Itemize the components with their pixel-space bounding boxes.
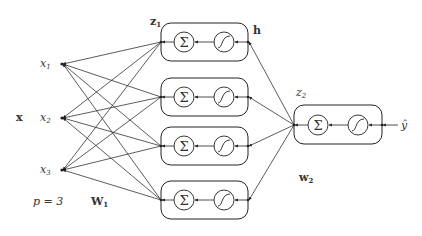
input-label-x1: x1 [40, 57, 51, 71]
sum-symbol: Σ [179, 35, 188, 50]
weights-2-label: w2 [298, 171, 313, 185]
hidden-unit-2 [160, 78, 250, 116]
hidden-preactivation-label: z1 [150, 15, 161, 29]
input-nodes [60, 62, 63, 171]
sum-symbol: Σ [179, 139, 188, 154]
input-hidden-connections [63, 42, 161, 200]
sigmoid-node-icon [214, 190, 234, 210]
sigmoid-node-icon [214, 32, 234, 52]
sigmoid-node-icon [214, 136, 234, 156]
input-node-x1 [60, 62, 63, 65]
hidden-unit-1 [160, 23, 250, 61]
sum-symbol: Σ [313, 118, 322, 133]
sigmoid-node-icon [214, 87, 234, 107]
neural-network-diagram: Σ Σ Σ Σ Σ x1 x2 x3 x p = 3 W1 z1 h z2 w2… [0, 0, 422, 236]
output-unit [293, 105, 398, 144]
weights-1-label: W1 [90, 195, 108, 209]
hidden-unit-4 [160, 181, 250, 219]
hidden-unit-3 [160, 127, 250, 165]
sigmoid-node-icon [348, 115, 368, 135]
input-label-x2: x2 [40, 111, 51, 125]
input-vector-label: x [16, 111, 23, 124]
hidden-activation-label: h [253, 24, 261, 37]
input-node-x2 [60, 116, 63, 119]
output-preactivation-label: z2 [295, 86, 307, 100]
hidden-output-connections [249, 42, 294, 200]
input-node-x3 [60, 168, 63, 171]
output-label: ŷ [400, 119, 408, 132]
input-label-x3: x3 [40, 163, 51, 177]
sum-symbol: Σ [179, 90, 188, 105]
hidden-layer [160, 23, 250, 219]
input-count-label: p = 3 [33, 195, 63, 208]
sum-symbol: Σ [179, 193, 188, 208]
